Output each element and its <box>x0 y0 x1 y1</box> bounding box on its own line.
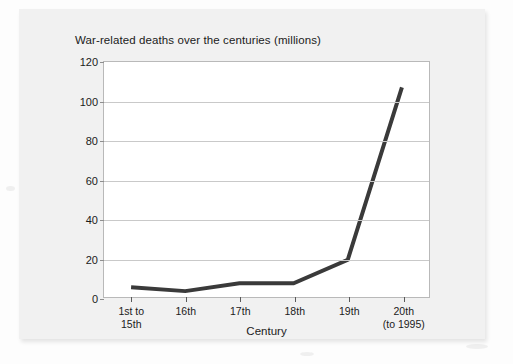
y-axis-tick <box>100 299 104 300</box>
y-axis-tick <box>100 62 104 63</box>
x-axis-tick <box>404 297 405 302</box>
paper-speck <box>300 352 314 356</box>
y-axis-tick <box>100 260 104 261</box>
figure-card: War-related deaths over the centuries (m… <box>19 9 485 339</box>
x-axis-tick <box>295 297 296 302</box>
x-axis-tick-label: 17th <box>230 305 250 318</box>
x-axis-tick <box>131 297 132 302</box>
x-axis-tick-label: 16th <box>176 305 196 318</box>
x-axis-tick <box>349 297 350 302</box>
y-axis-tick-label: 0 <box>92 293 98 305</box>
y-axis-tick-label: 20 <box>86 254 98 266</box>
y-axis-tick-label: 100 <box>80 96 98 108</box>
y-axis-tick-label: 80 <box>86 135 98 147</box>
gridline <box>104 181 429 182</box>
x-axis-tick <box>186 297 187 302</box>
y-axis-tick <box>100 181 104 182</box>
x-axis-tick-label: 19th <box>339 305 359 318</box>
paper-speck <box>466 344 488 349</box>
x-axis-title: Century <box>103 325 430 337</box>
gridline <box>104 141 429 142</box>
y-axis-tick <box>100 102 104 103</box>
line-series <box>104 62 429 297</box>
y-axis-tick <box>100 220 104 221</box>
x-axis-tick-label: 18th <box>285 305 305 318</box>
paper-speck <box>6 186 15 191</box>
y-axis-tick-label: 120 <box>80 56 98 68</box>
chart-title: War-related deaths over the centuries (m… <box>75 34 321 46</box>
scanned-page-background: War-related deaths over the centuries (m… <box>0 0 513 364</box>
plot-area: 0204060801001201st to15th16th17th18th19t… <box>103 61 430 298</box>
gridline <box>104 260 429 261</box>
y-axis-tick <box>100 141 104 142</box>
gridline <box>104 102 429 103</box>
gridline <box>104 220 429 221</box>
x-axis-tick <box>240 297 241 302</box>
series-line <box>131 87 402 291</box>
y-axis-tick-label: 60 <box>86 175 98 187</box>
y-axis-tick-label: 40 <box>86 214 98 226</box>
